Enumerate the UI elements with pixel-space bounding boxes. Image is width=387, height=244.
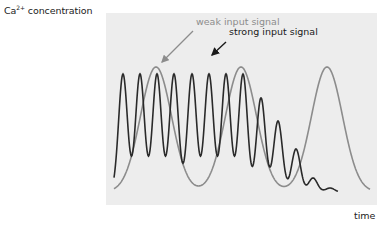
x-axis-label: time <box>354 210 375 221</box>
strong-signal-curve <box>114 74 338 191</box>
strong-signal-arrow <box>212 42 226 55</box>
strong-signal-label: strong input signal <box>229 26 318 37</box>
oscillation-curves: weak input signal strong input signal <box>0 0 387 244</box>
weak-signal-arrow <box>162 31 193 62</box>
